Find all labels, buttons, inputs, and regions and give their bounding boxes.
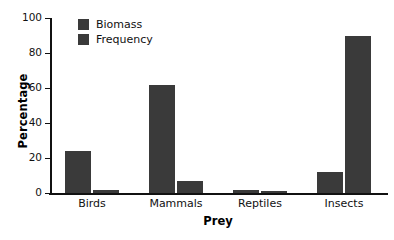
bar-reptiles-biomass <box>233 190 259 194</box>
legend-label-biomass: Biomass <box>96 18 142 31</box>
x-axis-title: Prey <box>50 214 386 228</box>
y-tick-label-40: 40 <box>12 116 42 128</box>
category-label-birds: Birds <box>50 197 134 210</box>
legend-item-frequency: Frequency <box>78 32 153 47</box>
category-label-reptiles: Reptiles <box>218 197 302 210</box>
legend-label-frequency: Frequency <box>96 33 153 46</box>
bar-insects-biomass <box>317 172 343 193</box>
bar-chart: Percentage 020406080100 BirdsMammalsRept… <box>0 0 394 240</box>
legend-swatch-biomass-icon <box>78 19 89 30</box>
category-label-mammals: Mammals <box>134 197 218 210</box>
chart-legend: BiomassFrequency <box>78 17 153 47</box>
y-tick-label-20: 20 <box>12 151 42 163</box>
y-tick-label-80: 80 <box>12 46 42 58</box>
y-tick-label-60: 60 <box>12 81 42 93</box>
legend-swatch-frequency-icon <box>78 34 89 45</box>
bar-mammals-biomass <box>149 85 175 194</box>
bar-reptiles-frequency <box>261 191 287 193</box>
bar-insects-frequency <box>345 36 371 193</box>
category-label-insects: Insects <box>302 197 386 210</box>
legend-item-biomass: Biomass <box>78 17 153 32</box>
bar-birds-biomass <box>65 151 91 193</box>
y-tick-0: 0 <box>45 193 50 194</box>
x-axis-line <box>49 193 388 195</box>
bar-mammals-frequency <box>177 181 203 193</box>
bar-birds-frequency <box>93 190 119 194</box>
y-tick-label-0: 0 <box>12 186 42 198</box>
y-tick-label-100: 100 <box>12 11 42 23</box>
